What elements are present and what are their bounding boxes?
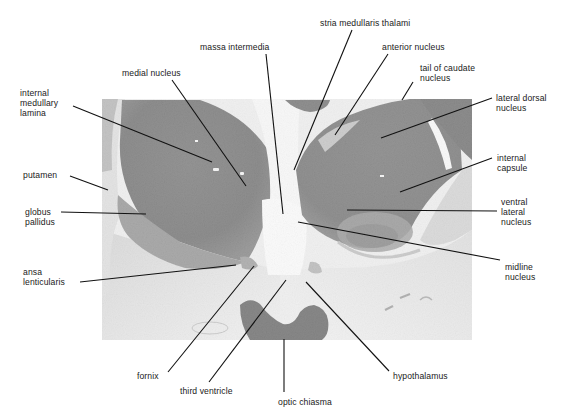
label-tail-of-caudate-nucleus: tail of caudate nucleus — [420, 63, 475, 83]
label-massa-intermedia: massa intermedia — [200, 42, 269, 52]
label-ansa-lenticularis: ansa lenticularis — [23, 267, 65, 287]
label-anterior-nucleus: anterior nucleus — [382, 42, 445, 52]
label-medial-nucleus: medial nucleus — [122, 68, 181, 78]
label-optic-chiasma: optic chiasma — [278, 397, 332, 407]
photo-panel — [102, 99, 472, 340]
label-internal-medullary-lamina: internal medullary lamina — [20, 88, 58, 118]
label-lateral-dorsal-nucleus: lateral dorsal nucleus — [496, 93, 547, 113]
label-hypothalamus: hypothalamus — [393, 371, 448, 381]
brain-section-figure: stria medullaris thalami massa intermedi… — [0, 0, 577, 420]
label-third-ventricle: third ventricle — [180, 386, 233, 396]
label-ventral-lateral-nucleus: ventral lateral nucleus — [501, 197, 531, 227]
label-putamen: putamen — [23, 170, 57, 180]
label-internal-capsule: internal capsule — [497, 153, 527, 173]
leader-line-tail-of-caudate-nucleus — [402, 82, 413, 100]
label-midline-nucleus: midline nucleus — [505, 262, 535, 282]
label-stria-medullaris-thalami: stria medullaris thalami — [320, 18, 410, 28]
label-fornix: fornix — [137, 371, 159, 381]
label-globus-pallidus: globus pallidus — [25, 207, 55, 227]
brain-section-illustration — [0, 0, 577, 420]
